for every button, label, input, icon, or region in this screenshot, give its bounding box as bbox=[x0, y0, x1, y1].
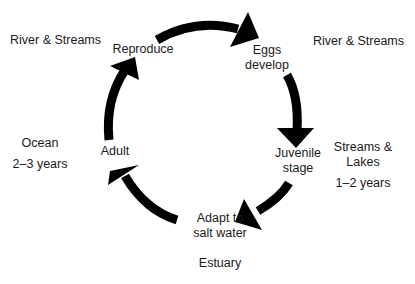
habitat-river-streams-left: River & Streams bbox=[10, 33, 101, 48]
stage-eggs-line1: Eggs bbox=[242, 43, 292, 58]
stage-adapt-salt-water: Adapt to salt water bbox=[180, 211, 260, 241]
stage-adapt-line2: salt water bbox=[180, 226, 260, 241]
habitat-estuary: Estuary bbox=[180, 256, 260, 271]
arrow-eggs-to-juvenile bbox=[277, 75, 314, 148]
stage-juvenile: Juvenile stage bbox=[270, 146, 326, 176]
habitat-streams-lakes-line1: Streams & bbox=[332, 140, 394, 155]
habitat-ocean-duration: 2–3 years bbox=[10, 157, 70, 172]
habitat-river-streams-right: River & Streams bbox=[313, 34, 404, 49]
stage-reproduce: Reproduce bbox=[110, 42, 176, 57]
stage-adult: Adult bbox=[95, 144, 135, 159]
stage-eggs-line2: develop bbox=[242, 58, 292, 73]
habitat-streams-lakes-line2: Lakes bbox=[332, 155, 394, 170]
habitat-ocean: Ocean 2–3 years bbox=[10, 136, 70, 172]
stage-eggs-develop: Eggs develop bbox=[242, 43, 292, 73]
habitat-streams-lakes-duration: 1–2 years bbox=[332, 176, 394, 191]
arrow-adapt-to-adult bbox=[108, 165, 177, 220]
stage-adapt-line1: Adapt to bbox=[180, 211, 260, 226]
habitat-streams-lakes: Streams & Lakes 1–2 years bbox=[332, 140, 394, 191]
arrow-adult-to-reproduce bbox=[108, 57, 139, 140]
stage-juvenile-line1: Juvenile bbox=[270, 146, 326, 161]
stage-juvenile-line2: stage bbox=[270, 161, 326, 176]
habitat-ocean-label: Ocean bbox=[10, 136, 70, 151]
